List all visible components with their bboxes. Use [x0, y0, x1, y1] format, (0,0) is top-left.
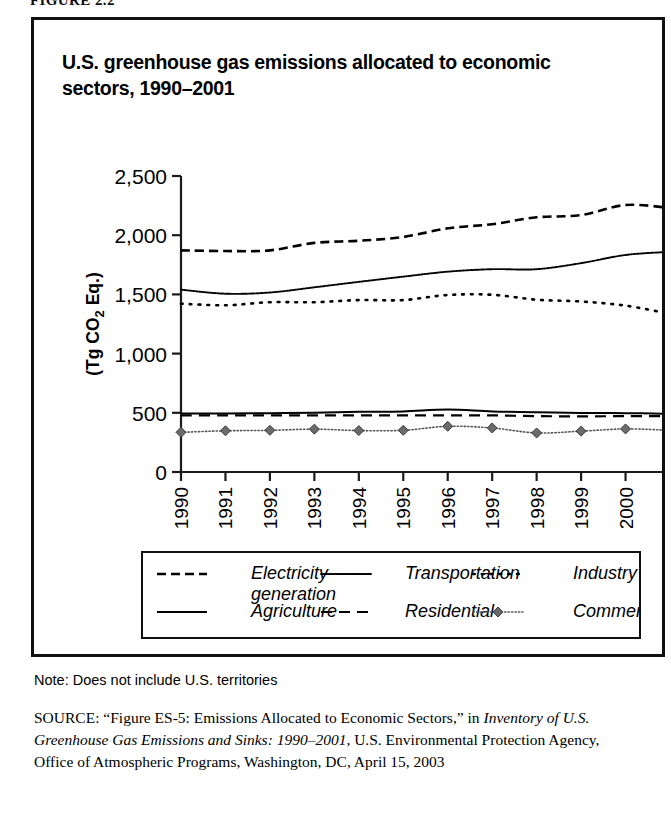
y-axis-title: (Tg CO2 Eq.): [83, 272, 107, 375]
series-marker: [354, 426, 364, 436]
chart-note: Note: Does not include U.S. territories: [34, 672, 277, 688]
series-residential: [181, 415, 662, 416]
series-transportation: [181, 252, 662, 294]
legend-label: Residential: [405, 601, 495, 621]
series-line: [181, 294, 662, 314]
x-axis-tick-label: 1999: [571, 487, 592, 528]
series-line: [181, 415, 662, 416]
series-marker: [532, 428, 542, 438]
legend-item-agriculture: Agriculture: [157, 601, 337, 621]
legend-label: Industry: [573, 563, 638, 583]
series-electricity-generation: [181, 205, 662, 251]
x-axis-tick-label: 2000: [616, 487, 637, 528]
y-axis-tick-label: 1,500: [114, 283, 167, 306]
x-axis-tick-label: 1998: [527, 487, 548, 528]
series-marker: [309, 424, 319, 434]
legend-label: Commercial: [573, 601, 639, 621]
series-marker: [220, 426, 230, 436]
y-axis-tick-label: 2,000: [114, 224, 167, 247]
series-marker: [576, 426, 586, 436]
series-line: [181, 205, 662, 251]
legend-item-commercial: Commercial: [473, 601, 639, 621]
y-axis-tick-label: 2,500: [114, 165, 167, 188]
figure-panel: U.S. greenhouse gas emissions allocated …: [31, 17, 665, 657]
series-commercial: [176, 421, 662, 438]
series-marker: [265, 425, 275, 435]
series-marker: [621, 424, 631, 434]
x-axis-tick-label: 1997: [482, 487, 503, 528]
chart-legend: ElectricitygenerationTransportationIndus…: [141, 551, 641, 639]
legend-swatch-marker: [493, 607, 503, 617]
x-axis-tick-label: 1991: [215, 487, 236, 528]
legend-label: Electricity: [251, 563, 329, 583]
chart-plot-area: 05001,0001,5002,0002,500(Tg CO2 Eq.)1990…: [34, 128, 662, 528]
legend-svg: ElectricitygenerationTransportationIndus…: [143, 553, 639, 637]
series-marker: [443, 421, 453, 431]
x-axis-tick-label: 1995: [393, 487, 414, 528]
source-prefix: SOURCE:: [34, 709, 99, 726]
y-axis-tick-label: 1,000: [114, 343, 167, 366]
series-marker: [176, 427, 186, 437]
series-agriculture: [181, 409, 662, 413]
x-axis-tick-label: 1996: [438, 487, 459, 528]
legend-item-residential: Residential: [321, 601, 495, 621]
series-line: [181, 426, 662, 433]
x-axis-tick-label: 1990: [171, 487, 192, 528]
series-marker: [398, 425, 408, 435]
line-chart-svg: 05001,0001,5002,0002,500(Tg CO2 Eq.)1990…: [34, 128, 662, 528]
x-axis-tick-label: 1992: [260, 487, 281, 528]
series-line: [181, 409, 662, 413]
legend-label: Transportation: [405, 563, 520, 583]
series-line: [181, 252, 662, 294]
chart-source: SOURCE: “Figure ES-5: Emissions Allocate…: [34, 707, 634, 773]
series-marker: [487, 423, 497, 433]
x-axis-tick-label: 1993: [304, 487, 325, 528]
chart-title: U.S. greenhouse gas emissions allocated …: [62, 50, 582, 102]
figure-number-label: FIGURE 2.2: [30, 0, 115, 9]
y-axis-tick-label: 500: [132, 402, 167, 425]
source-line-1: “Figure ES-5: Emissions Allocated to Eco…: [99, 709, 479, 726]
legend-item-electricity: Electricitygeneration: [157, 563, 336, 604]
x-axis-tick-label: 1994: [349, 487, 370, 528]
x-axis-tick-label: 2001: [660, 487, 662, 528]
y-axis-tick-label: 0: [155, 461, 167, 484]
series-industry: [181, 294, 662, 314]
